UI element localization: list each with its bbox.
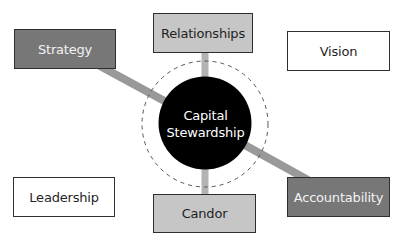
node-relationships-label: Relationships	[161, 26, 245, 41]
diagram-canvas: Capital Stewardship Strategy Relationshi…	[0, 0, 402, 247]
node-strategy-label: Strategy	[38, 42, 92, 57]
node-relationships: Relationships	[153, 13, 253, 53]
node-accountability: Accountability	[287, 177, 390, 217]
node-candor: Candor	[153, 194, 256, 233]
node-vision: Vision	[287, 31, 390, 71]
center-node-label: Capital Stewardship	[159, 77, 252, 170]
node-candor-label: Candor	[182, 206, 228, 221]
center-label-line2: Stewardship	[167, 124, 245, 141]
node-leadership-label: Leadership	[29, 190, 98, 205]
node-leadership: Leadership	[13, 177, 115, 217]
node-strategy: Strategy	[14, 29, 116, 69]
center-label-line1: Capital	[183, 107, 227, 124]
node-vision-label: Vision	[320, 44, 358, 59]
node-accountability-label: Accountability	[294, 190, 384, 205]
